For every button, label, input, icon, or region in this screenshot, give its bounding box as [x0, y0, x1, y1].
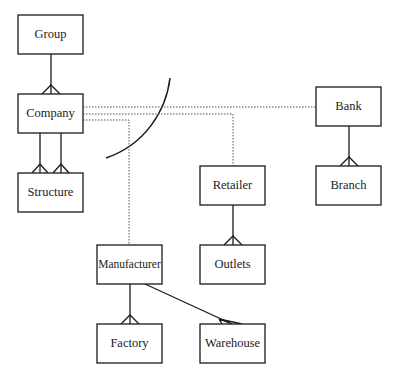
entity-manufacturer[interactable]: Manufacturer: [97, 245, 162, 284]
dotted-link-company-manufacturer: [83, 120, 129, 245]
entity-label-outlets: Outlets: [214, 257, 250, 271]
entity-warehouse[interactable]: Warehouse: [200, 324, 265, 363]
entity-label-structure: Structure: [28, 185, 74, 199]
link-company-structure-1: [32, 133, 48, 173]
link-retailer-outlets: [224, 205, 242, 245]
entity-branch[interactable]: Branch: [316, 166, 381, 205]
entity-label-bank: Bank: [335, 99, 362, 113]
entity-group[interactable]: Group: [18, 15, 83, 54]
er-diagram: Group Company Structure Bank Branch Reta…: [0, 0, 396, 379]
entity-label-warehouse: Warehouse: [205, 336, 261, 350]
entity-label-manufacturer: Manufacturer: [98, 258, 161, 270]
dotted-link-company-retailer: [83, 114, 233, 166]
entity-factory[interactable]: Factory: [97, 324, 162, 363]
entity-label-retailer: Retailer: [213, 178, 253, 192]
link-group-company: [42, 54, 60, 94]
entity-label-company: Company: [26, 106, 75, 120]
entity-bank[interactable]: Bank: [316, 87, 381, 126]
entity-label-factory: Factory: [110, 336, 149, 350]
entity-label-group: Group: [35, 27, 67, 41]
crows-foot-icon: [219, 319, 242, 324]
link-manufacturer-warehouse: [145, 284, 242, 324]
link-manufacturer-factory: [121, 284, 139, 324]
entity-company[interactable]: Company: [18, 94, 83, 133]
entity-structure[interactable]: Structure: [18, 173, 83, 212]
entity-label-branch: Branch: [330, 178, 367, 192]
link-company-structure-2: [53, 133, 69, 173]
link-bank-branch: [340, 126, 358, 166]
entity-outlets[interactable]: Outlets: [200, 245, 265, 284]
entity-retailer[interactable]: Retailer: [200, 166, 265, 205]
boundary-arc: [106, 78, 170, 158]
